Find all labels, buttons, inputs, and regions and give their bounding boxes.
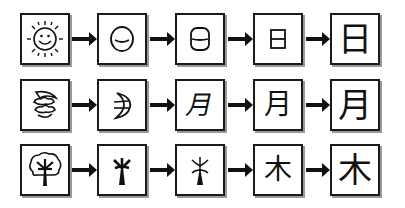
arrow-icon xyxy=(228,37,246,41)
sun-stage-4 xyxy=(253,13,303,65)
sun-stage-2 xyxy=(97,13,147,65)
tree-icon xyxy=(23,148,67,192)
box-stroke-icon xyxy=(258,19,298,59)
arrow-icon xyxy=(306,168,323,172)
circle-stroke-icon xyxy=(102,19,142,59)
arrow-icon xyxy=(150,168,168,172)
tree-glyph: 木 xyxy=(264,156,292,184)
row-sun: 日 xyxy=(0,13,405,69)
moon-character: 月 xyxy=(338,88,372,122)
moon-stage-5: 月 xyxy=(330,79,380,131)
moon-stage-4: 月 xyxy=(253,79,303,131)
sun-icon xyxy=(24,18,66,60)
sun-stage-5: 日 xyxy=(330,13,380,65)
tree-stage-5: 木 xyxy=(330,144,380,196)
arrow-icon xyxy=(150,103,168,107)
row-moon: 月 月 月 xyxy=(0,79,405,135)
arrow-icon xyxy=(72,168,90,172)
tree-stick-bold-icon xyxy=(102,150,142,190)
arrow-icon xyxy=(228,103,246,107)
arrow-icon xyxy=(228,168,246,172)
row-tree: 木 木 xyxy=(0,144,405,200)
tree-stage-3 xyxy=(175,144,225,196)
sun-character: 日 xyxy=(338,22,372,56)
moon-glyph: 月 xyxy=(264,91,292,119)
tree-stage-4: 木 xyxy=(253,144,303,196)
tree-stick-thin-icon xyxy=(180,150,220,190)
arrow-icon xyxy=(72,37,90,41)
sun-stage-3 xyxy=(175,13,225,65)
crescent-icon xyxy=(102,85,142,125)
arrow-icon xyxy=(150,37,168,41)
tree-stage-2 xyxy=(97,144,147,196)
tree-stage-1 xyxy=(20,144,70,196)
moon-stage-2 xyxy=(97,79,147,131)
arrow-icon xyxy=(306,103,323,107)
rounded-box-stroke-icon xyxy=(180,19,220,59)
arrow-icon xyxy=(72,103,90,107)
moon-glyph-slanted: 月 xyxy=(184,92,216,118)
tree-character: 木 xyxy=(338,153,372,187)
sun-stage-1 xyxy=(20,13,70,65)
moon-stage-1 xyxy=(20,79,70,131)
arrow-icon xyxy=(306,37,323,41)
moon-stage-3: 月 xyxy=(175,79,225,131)
moon-cloud-icon xyxy=(24,84,66,126)
